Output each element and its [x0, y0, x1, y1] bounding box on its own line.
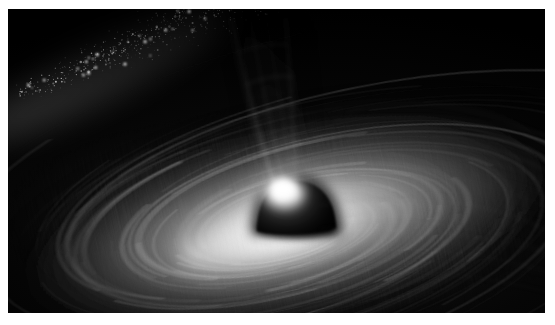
frame-border-right: [545, 0, 555, 325]
black-hole-image: [0, 0, 555, 325]
frame-border-left: [0, 0, 8, 325]
image-plate: [8, 9, 545, 313]
image-caption: [0, 313, 555, 325]
black-hole-artwork: [8, 9, 545, 313]
frame-border-top: [0, 0, 555, 9]
